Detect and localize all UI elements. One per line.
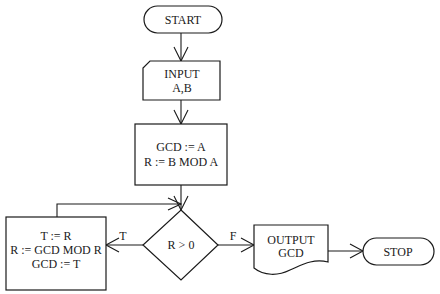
edge-decision-false: F [218, 229, 254, 252]
edge-decision-true: T [106, 229, 143, 252]
node-start: START [144, 6, 222, 33]
edge-loop-back [57, 198, 181, 217]
node-output: OUTPUT GCD [254, 225, 328, 274]
node-loop-line-1: T := R [40, 229, 71, 243]
node-output-line-2: GCD [278, 246, 304, 260]
edge-output-stop [328, 244, 363, 258]
node-init-line-2: R := B MOD A [144, 155, 218, 169]
node-init: GCD := A R := B MOD A [135, 124, 227, 185]
node-input-line-2: A,B [172, 81, 192, 95]
node-stop: STOP [363, 238, 434, 265]
node-init-line-1: GCD := A [156, 140, 206, 154]
node-start-label: START [165, 13, 202, 27]
node-input-line-1: INPUT [164, 67, 200, 81]
node-loop-line-3: GCD := T [32, 257, 81, 271]
node-output-line-1: OUTPUT [267, 233, 315, 247]
edge-label-true: T [119, 229, 127, 243]
node-decision-label: R > 0 [168, 238, 195, 252]
node-stop-label: STOP [383, 245, 412, 259]
edge-start-input [174, 33, 188, 61]
edge-input-init [174, 100, 188, 124]
node-input: INPUT A,B [143, 61, 220, 100]
node-loop-line-2: R := GCD MOD R [10, 243, 101, 257]
node-loop-body: T := R R := GCD MOD R GCD := T [6, 217, 106, 290]
flowchart-canvas: T F START INPUT A,B GCD := A R := B MOD … [0, 0, 440, 294]
node-decision: R > 0 [143, 210, 218, 280]
edge-label-false: F [230, 229, 237, 243]
